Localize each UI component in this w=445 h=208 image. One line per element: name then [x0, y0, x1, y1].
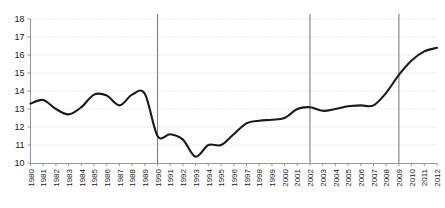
x-tick-label: 2001 [293, 168, 302, 186]
x-tick-label: 1983 [65, 168, 74, 186]
y-tick-label: 12 [14, 122, 24, 132]
x-tick-label: 1997 [243, 168, 252, 186]
x-tick-label: 1981 [39, 168, 48, 186]
x-tick-label: 2012 [433, 168, 442, 186]
x-tick-label: 1986 [103, 168, 112, 186]
x-tick-label: 2003 [319, 168, 328, 186]
x-tick-label: 2006 [357, 168, 366, 186]
x-tick-label: 1984 [78, 168, 87, 186]
reference-lines [158, 14, 399, 163]
y-axis-ticks: 101112131415161718 [14, 14, 30, 168]
x-tick-label: 1992 [179, 168, 188, 186]
x-tick-label: 1995 [217, 168, 226, 186]
chart-canvas: 101112131415161718 198019811982198319841… [0, 0, 445, 208]
x-tick-label: 1993 [192, 168, 201, 186]
x-tick-label: 2000 [281, 168, 290, 186]
x-tick-label: 1988 [128, 168, 137, 186]
x-tick-label: 1989 [141, 168, 150, 186]
x-axis-ticks: 1980198119821983198419851986198719881989… [27, 163, 443, 187]
x-tick-label: 1994 [205, 168, 214, 186]
x-tick-label: 2009 [395, 168, 404, 186]
x-tick-label: 2007 [370, 168, 379, 186]
y-tick-label: 13 [14, 104, 24, 114]
x-tick-label: 1991 [166, 168, 175, 186]
y-tick-label: 11 [15, 140, 24, 150]
x-tick-label: 1990 [154, 168, 163, 186]
y-tick-label: 15 [14, 68, 24, 78]
y-tick-label: 16 [14, 50, 24, 60]
y-tick-label: 14 [14, 86, 24, 96]
x-tick-label: 2005 [344, 168, 353, 186]
x-tick-label: 1982 [52, 168, 61, 186]
y-tick-label: 17 [14, 32, 24, 42]
gridlines [31, 19, 438, 145]
x-tick-label: 1987 [116, 168, 125, 186]
x-tick-label: 1999 [268, 168, 277, 186]
x-tick-label: 2008 [382, 168, 391, 186]
data-series-line [31, 48, 438, 157]
x-tick-label: 1985 [90, 168, 99, 186]
x-tick-label: 2002 [306, 168, 315, 186]
x-tick-label: 1998 [255, 168, 264, 186]
x-tick-label: 1996 [230, 168, 239, 186]
x-tick-label: 2004 [332, 168, 341, 186]
y-tick-label: 10 [14, 158, 24, 168]
x-tick-label: 1980 [27, 168, 36, 186]
x-tick-label: 2010 [408, 168, 417, 186]
line-chart: 101112131415161718 198019811982198319841… [0, 0, 445, 208]
x-tick-label: 2011 [420, 168, 429, 186]
y-tick-label: 18 [14, 14, 24, 24]
